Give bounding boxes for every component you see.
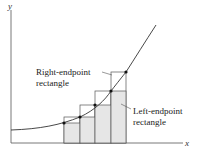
left-endpoint-label-line1: Left-endpoint xyxy=(133,106,183,116)
x-axis-label: x xyxy=(184,138,189,148)
right-endpoint-label-line1: Right-endpoint xyxy=(36,67,91,77)
right-label-leader xyxy=(102,72,112,75)
left-endpoint-label-line2: rectangle xyxy=(133,117,166,127)
y-axis-label: y xyxy=(7,1,12,11)
right-endpoint-label-line2: rectangle xyxy=(36,78,69,88)
riemann-diagram: y x Right-endpoint rectangle Left-endpoi… xyxy=(0,0,200,153)
